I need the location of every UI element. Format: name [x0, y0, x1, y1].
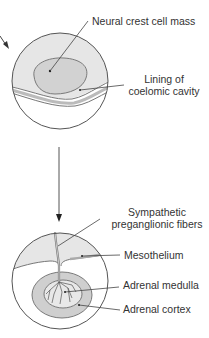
incoming-arrow-icon	[0, 36, 9, 49]
down-arrow-icon	[56, 147, 62, 222]
bottom-panel: Sympathetic preganglionic fibers Mesothe…	[0, 206, 203, 329]
label-sympathetic-line2: preganglionic fibers	[111, 218, 202, 230]
label-sympathetic-line1: Sympathetic	[128, 206, 186, 218]
label-neural-crest-cell-mass: Neural crest cell mass	[92, 15, 195, 27]
label-mesothelium: Mesothelium	[124, 249, 184, 261]
adrenal-development-diagram: Neural crest cell mass Lining of coelomi…	[0, 0, 209, 338]
label-lining-line2: coelomic cavity	[128, 85, 200, 97]
label-adrenal-cortex: Adrenal cortex	[123, 303, 191, 315]
label-lining-line1: Lining of	[144, 73, 184, 85]
adrenal-medulla	[44, 280, 82, 308]
label-adrenal-medulla: Adrenal medulla	[123, 279, 199, 291]
top-panel: Neural crest cell mass Lining of coelomi…	[0, 0, 200, 129]
